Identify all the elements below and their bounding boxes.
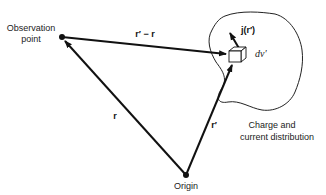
observation-point-label-line1: Observation [7, 23, 56, 33]
volume-element-cube [229, 47, 246, 62]
distribution-label-line1: Charge and [248, 120, 295, 130]
origin-label: Origin [174, 181, 198, 191]
origin-dot [183, 172, 189, 178]
vector-r-line [65, 41, 186, 175]
vector-difference-label: r′ − r [135, 29, 155, 39]
distribution-region [209, 12, 302, 110]
observation-point-label-line2: point [21, 34, 41, 44]
observation-point-dot [59, 34, 65, 40]
current-density-label: j(r′) [240, 25, 255, 35]
vector-r-prime-line [186, 65, 232, 175]
diagram-canvas: Observation point r′ − r r r′ j(r′) dv′ … [0, 0, 326, 195]
vector-r-prime-label: r′ [211, 120, 217, 130]
distribution-label-line2: current distribution [240, 132, 314, 142]
volume-element-label: dv′ [255, 48, 267, 59]
vector-difference-line [62, 37, 226, 54]
vector-r-label: r [113, 111, 117, 121]
